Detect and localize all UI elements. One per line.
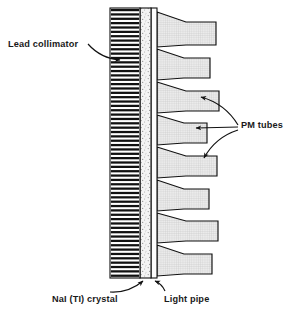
nai-crystal-body xyxy=(140,8,151,278)
collimator-septum xyxy=(111,188,139,190)
collimator-septum xyxy=(111,96,139,98)
collimator-septum xyxy=(111,192,139,194)
label-pm-tubes: PM tubes xyxy=(241,120,283,131)
collimator-septum xyxy=(111,183,139,185)
collimator-septum xyxy=(111,270,139,272)
collimator-septum xyxy=(111,275,139,277)
collimator-septum xyxy=(111,39,139,41)
collimator-septum xyxy=(111,161,139,163)
collimator-septum xyxy=(111,218,139,220)
collimator-septum xyxy=(111,22,139,24)
collimator-septum xyxy=(111,153,139,155)
collimator-septum xyxy=(111,148,139,150)
collimator-septum xyxy=(111,170,139,172)
collimator-septum xyxy=(111,131,139,133)
collimator-septum xyxy=(111,13,139,15)
nai-crystal-component xyxy=(140,8,151,278)
collimator-septum xyxy=(111,35,139,37)
collimator-septum xyxy=(111,118,139,120)
collimator-septum xyxy=(111,227,139,229)
collimator-septum xyxy=(111,209,139,211)
label-light-pipe: Light pipe xyxy=(164,294,209,305)
collimator-septum xyxy=(111,66,139,68)
collimator-septum xyxy=(111,74,139,76)
collimator-septum xyxy=(111,48,139,50)
collimator-septum xyxy=(111,61,139,63)
collimator-septum xyxy=(111,135,139,137)
collimator-septum xyxy=(111,79,139,81)
collimator-septum xyxy=(111,179,139,181)
collimator-septum xyxy=(111,122,139,124)
collimator-septum xyxy=(111,157,139,159)
collimator-septum xyxy=(111,83,139,85)
collimator-septum xyxy=(111,266,139,268)
collimator-septum xyxy=(111,240,139,242)
collimator-septum xyxy=(111,105,139,107)
collimator-septum xyxy=(111,100,139,102)
collimator-septum xyxy=(111,144,139,146)
collimator-septum xyxy=(111,196,139,198)
collimator-septum xyxy=(111,44,139,46)
collimator-septum xyxy=(111,244,139,246)
light-pipe-body xyxy=(151,8,157,278)
collimator-septum xyxy=(111,31,139,33)
collimator-septum xyxy=(111,53,139,55)
collimator-septum xyxy=(111,257,139,259)
collimator-septum xyxy=(111,140,139,142)
collimator-septum xyxy=(111,92,139,94)
collimator-septum xyxy=(111,253,139,255)
collimator-septum xyxy=(111,9,139,11)
collimator-septum xyxy=(111,174,139,176)
collimator-septum xyxy=(111,235,139,237)
collimator-septum xyxy=(111,109,139,111)
collimator-septum xyxy=(111,201,139,203)
collimator-septum xyxy=(111,205,139,207)
collimator-septum xyxy=(111,262,139,264)
light-pipe-component xyxy=(151,8,157,278)
collimator-septum xyxy=(111,222,139,224)
lead-collimator-component xyxy=(110,8,140,278)
collimator-septum xyxy=(111,18,139,20)
label-lead-collimator: Lead collimator xyxy=(8,39,78,50)
collimator-septum xyxy=(111,70,139,72)
collimator-septum xyxy=(111,166,139,168)
collimator-septum xyxy=(111,248,139,250)
collimator-septum xyxy=(111,26,139,28)
collimator-septum xyxy=(111,87,139,89)
collimator-septum xyxy=(111,127,139,129)
collimator-septum xyxy=(111,231,139,233)
label-nai-crystal: NaI (TI) crystal xyxy=(52,294,118,305)
collimator-septum xyxy=(111,214,139,216)
collimator-septum xyxy=(111,113,139,115)
collimator-septum xyxy=(111,57,139,59)
